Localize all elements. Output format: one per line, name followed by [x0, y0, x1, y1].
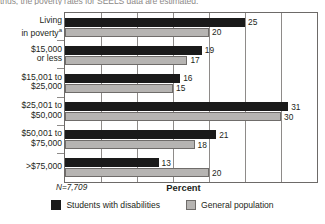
- bar-group: 1320: [65, 154, 317, 182]
- bar-value-label: 17: [190, 56, 199, 64]
- bar-students-with-disabilities: [65, 102, 288, 111]
- category-label-4: $50,001 to$75,000: [0, 129, 62, 148]
- legend-swatch-icon-series-2: [186, 200, 196, 210]
- bar-students-with-disabilities: [65, 130, 216, 139]
- bar-row: 16: [65, 74, 317, 83]
- category-separator: [57, 68, 64, 69]
- bar-general-population: [65, 140, 195, 149]
- bar-groups: 252019171615313021181320: [65, 13, 317, 182]
- bar-value-label: 30: [284, 112, 293, 120]
- bar-chart-plot-area: 252019171615313021181320: [64, 12, 318, 183]
- bar-row: 20: [65, 168, 317, 177]
- chart-legend: Students with disabilities General popul…: [0, 200, 325, 210]
- bar-row: 31: [65, 102, 317, 111]
- bar-row: 15: [65, 84, 317, 93]
- bar-students-with-disabilities: [65, 74, 180, 83]
- category-separator: [57, 153, 64, 154]
- legend-item-students-with-disabilities: Students with disabilities: [51, 200, 160, 210]
- bar-row: 17: [65, 56, 317, 65]
- bar-general-population: [65, 168, 209, 177]
- bar-value-label: 13: [162, 159, 171, 167]
- category-label-2: $15,001 to$25,000: [0, 73, 62, 92]
- bar-row: 25: [65, 18, 317, 27]
- bar-row: 18: [65, 140, 317, 149]
- bar-value-label: 18: [198, 141, 207, 149]
- bar-value-label: 16: [183, 74, 192, 82]
- category-separator: [57, 125, 64, 126]
- bar-row: 21: [65, 130, 317, 139]
- bar-general-population: [65, 28, 209, 37]
- category-axis-labels: Livingin povertya$15,000or less$15,001 t…: [0, 12, 62, 183]
- cut-off-caption: thus, the poverty rates for SEELS data a…: [0, 0, 325, 5]
- x-axis-title: Percent: [0, 182, 325, 193]
- bar-general-population: [65, 56, 187, 65]
- bar-value-label: 31: [291, 102, 300, 110]
- category-separator: [57, 97, 64, 98]
- bar-students-with-disabilities: [65, 46, 202, 55]
- legend-item-general-population: General population: [186, 200, 274, 210]
- bar-row: 30: [65, 112, 317, 121]
- bar-value-label: 15: [176, 84, 185, 92]
- bar-group: 3130: [65, 98, 317, 126]
- bar-group: 1615: [65, 69, 317, 97]
- legend-label-series-1: Students with disabilities: [66, 200, 160, 210]
- bar-value-label: 20: [212, 169, 221, 177]
- category-label-3: $25,001 to$50,000: [0, 101, 62, 120]
- bar-value-label: 20: [212, 28, 221, 36]
- category-label-1: $15,000or less: [0, 45, 62, 64]
- bar-students-with-disabilities: [65, 158, 159, 167]
- category-label-5: >$75,000: [0, 162, 62, 172]
- bar-value-label: 19: [205, 46, 214, 54]
- bar-students-with-disabilities: [65, 18, 245, 27]
- category-separator: [57, 40, 64, 41]
- legend-label-series-2: General population: [201, 200, 274, 210]
- category-label-0: Livingin povertya: [0, 16, 62, 38]
- bar-row: 20: [65, 28, 317, 37]
- bar-row: 19: [65, 46, 317, 55]
- legend-swatch-icon-series-1: [51, 200, 61, 210]
- bar-value-label: 21: [219, 131, 228, 139]
- bar-group: 2118: [65, 126, 317, 154]
- bar-group: 2520: [65, 13, 317, 41]
- bar-general-population: [65, 84, 173, 93]
- bar-general-population: [65, 112, 281, 121]
- bar-group: 1917: [65, 41, 317, 69]
- bar-value-label: 25: [248, 18, 257, 26]
- bar-row: 13: [65, 158, 317, 167]
